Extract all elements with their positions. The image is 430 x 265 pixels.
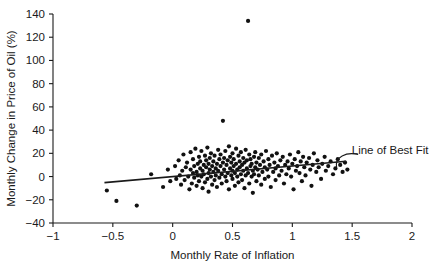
data-point	[233, 184, 237, 188]
data-point	[345, 167, 349, 171]
data-point	[293, 157, 297, 161]
data-point	[319, 177, 323, 181]
data-point	[324, 169, 328, 173]
data-point	[215, 162, 219, 166]
data-point	[279, 169, 283, 173]
data-point	[272, 161, 276, 165]
data-point	[300, 179, 304, 183]
data-point	[189, 167, 193, 171]
data-point	[308, 167, 312, 171]
data-point	[271, 170, 275, 174]
data-point	[242, 186, 246, 190]
data-point	[222, 167, 226, 171]
x-tick-label: −1	[46, 230, 59, 242]
data-point	[312, 151, 316, 155]
data-point	[229, 161, 233, 165]
data-point	[252, 172, 256, 176]
data-point	[200, 186, 204, 190]
data-point	[183, 178, 187, 182]
data-point	[246, 19, 250, 23]
data-point	[258, 163, 262, 167]
data-point	[218, 152, 222, 156]
data-point	[226, 158, 230, 162]
data-point	[260, 170, 264, 174]
annotation-label-line-of-best-fit: Line of Best Fit	[352, 144, 430, 156]
data-point	[212, 178, 216, 182]
data-point	[241, 156, 245, 160]
data-point	[230, 177, 234, 181]
x-tick-label: 1.5	[344, 230, 360, 242]
data-point	[235, 174, 239, 178]
data-point	[239, 150, 243, 154]
data-point	[203, 180, 207, 184]
data-point	[149, 172, 153, 176]
data-point	[289, 174, 293, 178]
data-point	[181, 152, 185, 156]
data-point	[206, 162, 210, 166]
data-point	[166, 167, 170, 171]
data-point	[208, 167, 212, 171]
data-point	[240, 178, 244, 182]
data-point	[259, 183, 263, 187]
data-point	[228, 155, 232, 159]
data-point	[192, 164, 196, 168]
data-point	[230, 151, 234, 155]
data-point	[238, 159, 242, 163]
y-tick-label: −20	[25, 194, 45, 206]
data-point	[204, 165, 208, 169]
data-point	[184, 165, 188, 169]
y-tick-label: 0	[39, 171, 45, 183]
data-point	[224, 163, 228, 167]
data-point	[326, 164, 330, 168]
data-point	[245, 158, 249, 162]
data-point	[263, 177, 267, 181]
data-point	[278, 158, 282, 162]
data-point	[254, 161, 258, 165]
data-point	[224, 179, 228, 183]
data-point	[246, 171, 250, 175]
data-point	[220, 181, 224, 185]
data-point	[185, 161, 189, 165]
data-point	[236, 180, 240, 184]
data-point	[254, 179, 258, 183]
data-point	[268, 163, 272, 167]
x-tick-label: 1	[289, 230, 295, 242]
data-point	[212, 154, 216, 158]
data-point	[209, 174, 213, 178]
y-tick-label: 100	[26, 54, 45, 66]
data-point	[210, 183, 214, 187]
data-point	[266, 157, 270, 161]
data-point	[331, 172, 335, 176]
data-point	[252, 155, 256, 159]
data-point	[270, 154, 274, 158]
data-point	[234, 162, 238, 166]
data-point	[282, 181, 286, 185]
scatter-plot-figure: −1−0.500.511.52−40−20020406080100120140M…	[0, 0, 430, 265]
data-point	[190, 181, 194, 185]
chart-canvas: −1−0.500.511.52−40−20020406080100120140M…	[0, 0, 430, 265]
data-point	[177, 158, 181, 162]
data-point	[232, 157, 236, 161]
data-point	[218, 164, 222, 168]
data-point	[204, 158, 208, 162]
y-tick-label: 120	[26, 31, 45, 43]
data-point	[221, 119, 225, 123]
x-axis-title: Monthly Rate of Inflation	[170, 249, 294, 261]
data-point	[223, 174, 227, 178]
data-point	[195, 184, 199, 188]
y-tick-label: 140	[26, 8, 45, 20]
data-point	[180, 169, 184, 173]
data-point	[275, 151, 279, 155]
data-point	[205, 177, 209, 181]
data-point	[273, 178, 277, 182]
data-point	[285, 159, 289, 163]
data-point	[199, 149, 203, 153]
data-point	[296, 150, 300, 154]
data-point	[191, 157, 195, 161]
y-tick-label: 40	[32, 124, 45, 136]
data-point	[277, 173, 281, 177]
data-point	[314, 170, 318, 174]
data-point	[211, 159, 215, 163]
data-point	[262, 159, 266, 163]
data-point	[221, 161, 225, 165]
